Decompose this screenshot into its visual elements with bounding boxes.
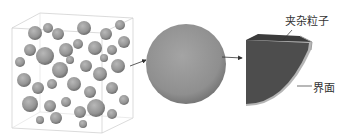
particle-label: 夹杂粒子	[285, 12, 329, 28]
single-particle-sphere	[146, 24, 226, 104]
particle-composite-cube	[12, 13, 133, 133]
arrow-icon	[130, 60, 146, 66]
figure: 夹杂粒子 界面	[0, 0, 346, 139]
cut-section-octant	[246, 34, 312, 106]
interface-label: 界面	[313, 79, 335, 95]
